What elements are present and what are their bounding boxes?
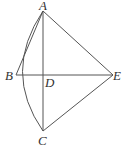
- label-e: E: [112, 68, 121, 83]
- label-d: D: [44, 75, 55, 90]
- geometry-figure: A B D E C: [0, 0, 130, 150]
- segment-ae: [43, 11, 113, 75]
- label-b: B: [5, 68, 13, 83]
- label-c: C: [38, 133, 47, 148]
- segment-ab: [16, 11, 43, 75]
- label-a: A: [38, 0, 47, 13]
- arc-abc: [23, 11, 44, 131]
